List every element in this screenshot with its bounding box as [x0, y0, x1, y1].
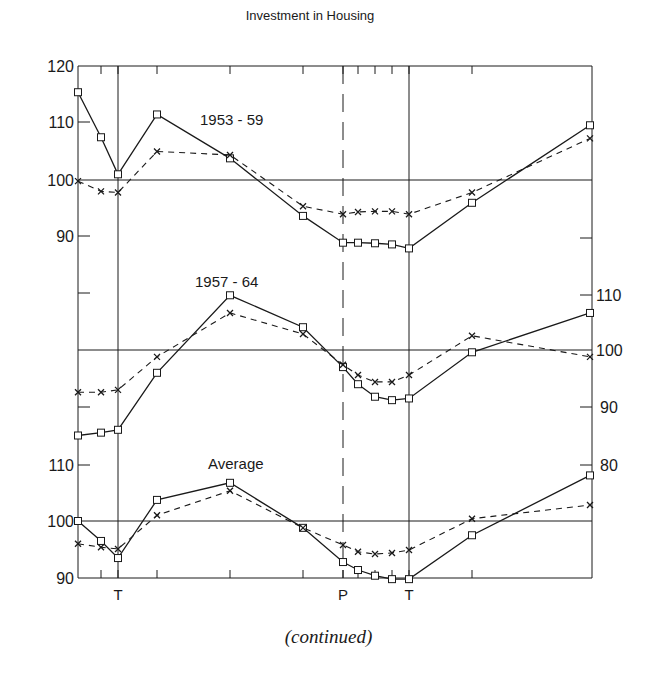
y-label-bottom-100: 100: [47, 513, 74, 530]
y-label-bottom-110: 110: [48, 457, 74, 474]
square-marker-icon: [406, 395, 413, 402]
square-marker-icon: [355, 381, 362, 388]
square-marker-icon: [154, 369, 161, 376]
square-marker-icon: [75, 518, 82, 525]
square-marker-icon: [406, 576, 413, 583]
chart-title: Investment in Housing: [246, 8, 375, 23]
x-marker-icon: [372, 551, 378, 557]
x-marker-icon: [300, 331, 306, 337]
y-right-label-110: 110: [596, 287, 622, 304]
square-marker-icon: [227, 479, 234, 486]
panel-label-1957-64: 1957 - 64: [195, 273, 258, 290]
square-marker-icon: [340, 239, 347, 246]
square-marker-icon: [75, 432, 82, 439]
y-label-90: 90: [56, 228, 74, 245]
square-marker-icon: [469, 199, 476, 206]
housing-investment-chart: Investment in Housing 120 110 100 90 110: [0, 0, 657, 683]
x-marker-icon: [154, 512, 160, 518]
square-marker-icon: [340, 559, 347, 566]
square-marker-icon: [372, 393, 379, 400]
x-marker-trough-left: T: [113, 586, 122, 603]
y-label-100: 100: [47, 172, 74, 189]
y-label-110: 110: [48, 114, 74, 131]
solid-series-line: [78, 475, 590, 579]
square-marker-icon: [587, 122, 594, 129]
square-marker-icon: [389, 397, 396, 404]
y-label-bottom-90: 90: [56, 570, 74, 587]
left-axis-labels: 120 110 100 90 110 100 90: [47, 58, 74, 587]
square-marker-icon: [227, 292, 234, 299]
square-marker-icon: [115, 426, 122, 433]
x-marker-peak: P: [338, 586, 348, 603]
square-marker-icon: [355, 239, 362, 246]
y-tick-marks: [78, 122, 592, 465]
y-label-120: 120: [47, 58, 74, 75]
square-marker-icon: [154, 496, 161, 503]
series-layer: [75, 89, 594, 583]
square-marker-icon: [227, 155, 234, 162]
solid-series-line: [78, 295, 590, 435]
square-marker-icon: [300, 324, 307, 331]
square-marker-icon: [115, 555, 122, 562]
continued-caption: (continued): [0, 626, 657, 648]
square-marker-icon: [98, 429, 105, 436]
y-right-label-80: 80: [600, 457, 618, 474]
square-marker-icon: [372, 572, 379, 579]
square-marker-icon: [389, 576, 396, 583]
square-marker-icon: [154, 111, 161, 118]
panel-label-average: Average: [208, 455, 264, 472]
panel-label-1953-59: 1953 - 59: [200, 111, 263, 128]
square-marker-icon: [587, 309, 594, 316]
square-marker-icon: [389, 241, 396, 248]
square-marker-icon: [115, 171, 122, 178]
square-marker-icon: [355, 567, 362, 574]
square-marker-icon: [406, 245, 413, 252]
square-marker-icon: [75, 89, 82, 96]
x-marker-icon: [300, 203, 306, 209]
x-marker-trough-right: T: [404, 586, 413, 603]
y-right-label-90: 90: [600, 399, 618, 416]
square-marker-icon: [372, 240, 379, 247]
x-marker-icon: [154, 354, 160, 360]
square-marker-icon: [587, 472, 594, 479]
x-marker-icon: [227, 488, 233, 494]
square-marker-icon: [300, 212, 307, 219]
x-marker-icon: [355, 372, 361, 378]
square-marker-icon: [469, 532, 476, 539]
x-marker-icon: [469, 190, 475, 196]
dashed-series-line: [78, 313, 590, 392]
right-axis-labels: 110 100 90 80: [596, 287, 623, 474]
x-marker-icon: [227, 310, 233, 316]
square-marker-icon: [469, 349, 476, 356]
y-right-label-100: 100: [596, 342, 623, 359]
square-marker-icon: [98, 134, 105, 141]
square-marker-icon: [98, 537, 105, 544]
